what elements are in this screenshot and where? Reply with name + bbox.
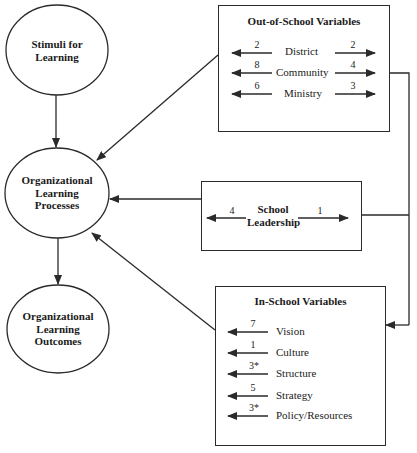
outcomes-label: Organizational Learning Outcomes <box>7 310 109 348</box>
strategy-label: Strategy <box>276 389 313 401</box>
processes-line2: Learning <box>5 187 109 200</box>
out-of-school-title: Out-of-School Variables <box>219 15 389 27</box>
culture-value: 1 <box>243 339 263 350</box>
in-school-box: In-School Variables <box>215 286 386 446</box>
culture-label: Culture <box>276 346 309 358</box>
ministry-right-value: 3 <box>343 80 363 91</box>
leadership-right-value: 1 <box>310 205 330 216</box>
school-leadership-line2: Leadership <box>247 216 299 229</box>
vision-label: Vision <box>276 325 305 337</box>
outcomes-line3: Outcomes <box>7 335 109 348</box>
school-leadership-line1: School <box>247 203 299 216</box>
policy-resources-value: 3* <box>244 402 264 413</box>
outcomes-line2: Learning <box>7 323 109 336</box>
community-right-value: 4 <box>343 59 363 70</box>
stimuli-line1: Stimuli for <box>6 38 108 51</box>
structure-value: 3* <box>244 360 264 371</box>
processes-label: Organizational Learning Processes <box>5 174 109 212</box>
outcomes-line1: Organizational <box>7 310 109 323</box>
stimuli-label: Stimuli for Learning <box>6 38 108 63</box>
district-label: District <box>285 45 318 57</box>
processes-line3: Processes <box>5 199 109 212</box>
ministry-label: Ministry <box>284 87 322 99</box>
community-left-value: 8 <box>247 59 267 70</box>
school-leadership-label: School Leadership <box>247 203 299 228</box>
processes-line1: Organizational <box>5 174 109 187</box>
stimuli-line2: Learning <box>6 51 108 64</box>
vision-value: 7 <box>243 318 263 329</box>
ministry-left-value: 6 <box>247 80 267 91</box>
structure-label: Structure <box>276 367 316 379</box>
in-school-title: In-School Variables <box>216 295 385 307</box>
district-right-value: 2 <box>343 39 363 50</box>
strategy-value: 5 <box>243 382 263 393</box>
community-label: Community <box>276 66 329 78</box>
leadership-left-value: 4 <box>222 205 242 216</box>
policy-resources-label: Policy/Resources <box>276 409 352 421</box>
district-left-value: 2 <box>247 39 267 50</box>
